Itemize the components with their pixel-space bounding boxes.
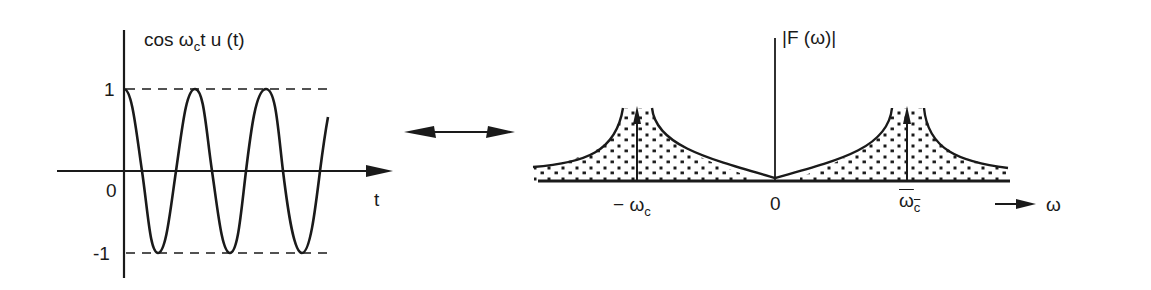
subscript-c: c: [914, 200, 921, 215]
omega-symbol: ω: [899, 190, 914, 211]
left-plot: [57, 30, 393, 278]
t-axis-label: t: [374, 190, 379, 209]
x-tick-pos-omega-c: ωc: [899, 191, 920, 210]
transform-pair-arrow: [404, 126, 515, 138]
left-plot-title: cos ωct u (t): [144, 30, 245, 49]
title-subscript: c: [194, 39, 201, 54]
subscript-c: c: [644, 204, 651, 219]
omega-arrow-head: [1016, 199, 1036, 209]
omega-axis-label: ω: [1046, 195, 1061, 214]
left-x-axis-arrowhead: [366, 165, 393, 177]
y-tick-minus-one: -1: [93, 244, 110, 263]
y-tick-plus-one: 1: [104, 80, 115, 99]
omega-symbol: ω: [629, 194, 644, 215]
right-plot: [533, 38, 1036, 209]
x-tick-zero: 0: [770, 194, 781, 213]
x-tick-neg-omega-c: − ωc: [613, 195, 651, 214]
right-lobe-fill: [800, 108, 1008, 181]
right-plot-title: |F (ω)|: [782, 28, 836, 47]
origin-label: 0: [106, 181, 117, 200]
left-lobe-fill: [534, 108, 752, 181]
title-prefix: cos ω: [144, 29, 194, 50]
title-suffix: t u (t): [200, 29, 244, 50]
minus-sign: −: [613, 194, 624, 215]
